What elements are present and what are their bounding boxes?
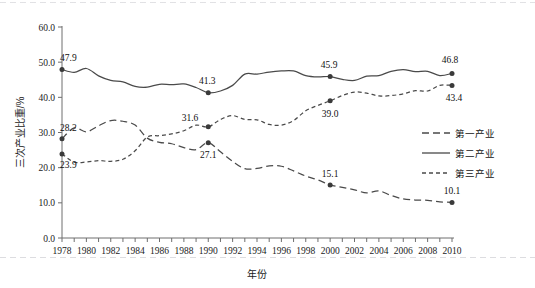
data-point-marker <box>206 124 211 129</box>
y-tick-label: 0.0 <box>43 234 55 244</box>
data-point-label: 39.0 <box>322 109 339 119</box>
y-tick-label: 50.0 <box>38 58 55 68</box>
x-tick-label: 2002 <box>345 246 364 256</box>
chart-figure: 0.010.020.030.040.050.060.01978198019821… <box>0 0 535 288</box>
x-tick-label: 2004 <box>369 246 388 256</box>
data-point-label: 23.9 <box>60 160 77 170</box>
x-tick-label: 1998 <box>296 246 315 256</box>
y-axis-title: 三次产业比重/% <box>14 97 26 169</box>
x-tick-label: 1990 <box>199 246 218 256</box>
legend-label-第二产业[interactable]: 第二产业 <box>455 148 495 159</box>
x-tick-label: 1980 <box>77 246 96 256</box>
x-tick-label: 1986 <box>150 246 169 256</box>
y-tick-label: 40.0 <box>38 93 55 103</box>
x-axis-title: 年份 <box>247 268 267 280</box>
page-bottom-rule <box>0 257 535 258</box>
data-point-label: 47.9 <box>60 53 77 63</box>
data-point-marker <box>328 182 333 187</box>
x-tick-label: 2010 <box>443 246 462 256</box>
data-point-label: 41.3 <box>199 76 216 86</box>
data-point-marker <box>206 140 211 145</box>
data-point-label: 43.4 <box>446 93 463 103</box>
data-point-label: 46.8 <box>442 55 459 65</box>
data-point-marker <box>60 67 65 72</box>
data-point-marker <box>328 98 333 103</box>
data-point-label: 28.2 <box>60 123 77 133</box>
data-point-label: 15.1 <box>322 169 339 179</box>
data-point-marker <box>450 200 455 205</box>
data-point-marker <box>206 90 211 95</box>
x-tick-label: 2006 <box>394 246 413 256</box>
data-point-marker <box>60 136 65 141</box>
y-tick-label: 60.0 <box>38 23 55 33</box>
y-tick-label: 20.0 <box>38 163 55 173</box>
page-top-rule <box>0 2 535 3</box>
data-point-label: 10.1 <box>444 186 461 196</box>
x-tick-label: 1988 <box>174 246 193 256</box>
y-tick-label: 10.0 <box>38 198 55 208</box>
x-tick-label: 1996 <box>272 246 291 256</box>
series-line-第二产业 <box>62 68 452 92</box>
x-tick-label: 2000 <box>321 246 340 256</box>
y-tick-label: 30.0 <box>38 128 55 138</box>
data-point-marker <box>450 71 455 76</box>
chart-axes <box>62 26 454 238</box>
series-line-第三产业 <box>62 85 452 163</box>
data-point-marker <box>328 74 333 79</box>
line-chart: 0.010.020.030.040.050.060.01978198019821… <box>0 0 535 288</box>
x-tick-label: 1984 <box>126 246 145 256</box>
data-point-label: 31.6 <box>182 113 199 123</box>
x-tick-label: 2008 <box>418 246 437 256</box>
x-tick-label: 1982 <box>101 246 120 256</box>
x-tick-label: 1994 <box>248 246 267 256</box>
data-point-marker <box>450 83 455 88</box>
series-line-第一产业 <box>62 120 452 202</box>
x-tick-label: 1978 <box>53 246 72 256</box>
legend-label-第三产业[interactable]: 第三产业 <box>455 168 495 179</box>
data-point-label: 27.1 <box>200 150 217 160</box>
x-tick-label: 1992 <box>223 246 242 256</box>
data-point-label: 45.9 <box>321 60 338 70</box>
legend-label-第一产业[interactable]: 第一产业 <box>455 128 495 139</box>
data-point-marker <box>60 151 65 156</box>
